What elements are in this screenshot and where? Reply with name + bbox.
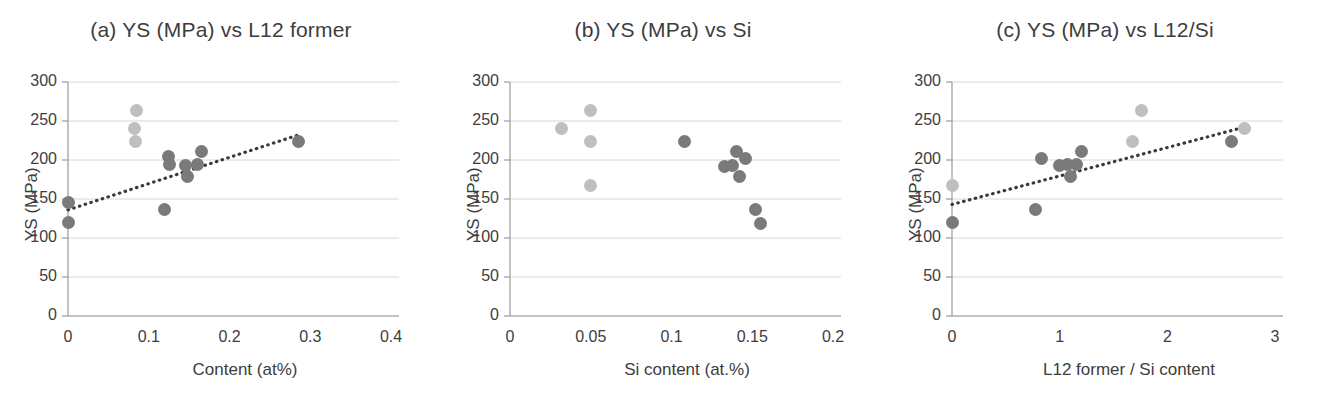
y-tick-label: 250 [884, 111, 941, 129]
plot-area: 05010015020025030000.050.10.150.2YS (MPa… [442, 0, 884, 400]
plot-area: 05010015020025030000.10.20.30.4YS (MPa)C… [0, 0, 442, 400]
y-tick-label: 200 [0, 150, 57, 168]
x-tick-label: 0.1 [632, 328, 712, 346]
data-point [191, 158, 204, 171]
x-tick-label: 0.2 [793, 328, 873, 346]
data-point [128, 122, 141, 135]
y-tick-label: 300 [442, 72, 499, 90]
data-point [1064, 170, 1077, 183]
y-tick-label: 250 [0, 111, 57, 129]
data-point [754, 217, 767, 230]
data-point [733, 170, 746, 183]
x-tick-label: 3 [1235, 328, 1315, 346]
y-axis-label: YS (MPa) [464, 167, 484, 241]
data-point [62, 196, 75, 209]
y-axis-label: YS (MPa) [22, 167, 42, 241]
trendline [952, 126, 1247, 204]
x-tick-label: 0.05 [551, 328, 631, 346]
data-point [1035, 152, 1048, 165]
x-tick-label: 2 [1127, 328, 1207, 346]
x-tick-label: 0.4 [351, 328, 431, 346]
y-tick-label: 50 [442, 267, 499, 285]
y-tick-label: 250 [442, 111, 499, 129]
x-tick-label: 0.2 [190, 328, 270, 346]
y-tick-label: 0 [0, 306, 57, 324]
y-tick-label: 0 [442, 306, 499, 324]
data-point [555, 122, 568, 135]
x-tick-label: 1 [1020, 328, 1100, 346]
figure-container: (a) YS (MPa) vs L12 former05010015020025… [0, 0, 1328, 400]
x-axis-label: L12 former / Si content [908, 360, 1328, 380]
x-tick-label: 0 [28, 328, 108, 346]
y-tick-label: 300 [884, 72, 941, 90]
x-axis-label: Si content (at.%) [466, 360, 908, 380]
chart-panel-a: (a) YS (MPa) vs L12 former05010015020025… [0, 0, 442, 400]
y-tick-label: 300 [0, 72, 57, 90]
y-tick-label: 200 [884, 150, 941, 168]
data-point [292, 135, 305, 148]
x-axis-label: Content (at%) [24, 360, 466, 380]
y-axis-label: YS (MPa) [906, 167, 926, 241]
data-point [1075, 145, 1088, 158]
data-point [1238, 122, 1251, 135]
data-point [946, 216, 959, 229]
x-tick-label: 0.1 [109, 328, 189, 346]
x-tick-label: 0 [912, 328, 992, 346]
y-tick-label: 200 [442, 150, 499, 168]
chart-panel-c: (c) YS (MPa) vs L12/Si050100150200250300… [884, 0, 1326, 400]
x-tick-label: 0 [470, 328, 550, 346]
data-point [749, 203, 762, 216]
y-tick-label: 0 [884, 306, 941, 324]
data-point [584, 135, 597, 148]
data-point [158, 203, 171, 216]
data-point [946, 179, 959, 192]
y-tick-label: 50 [884, 267, 941, 285]
plot-area: 0501001502002503000123YS (MPa)L12 former… [884, 0, 1326, 400]
x-tick-label: 0.3 [270, 328, 350, 346]
data-point [195, 145, 208, 158]
y-tick-label: 50 [0, 267, 57, 285]
data-point [62, 216, 75, 229]
data-point [181, 170, 194, 183]
chart-panel-b: (b) YS (MPa) vs Si05010015020025030000.0… [442, 0, 884, 400]
x-tick-label: 0.15 [712, 328, 792, 346]
data-point [678, 135, 691, 148]
